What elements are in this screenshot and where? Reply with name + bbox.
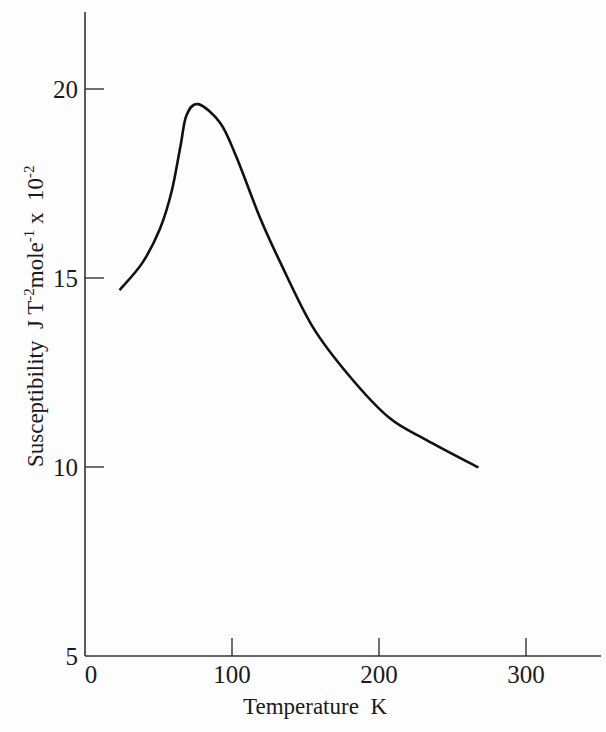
x-tick-label: 100 [213,661,251,688]
susceptibility-curve [120,104,477,467]
x-tick-label: 300 [507,661,545,688]
x-tick-label: 200 [360,661,398,688]
ticks: 51015200100200300 [53,76,545,688]
chart: 51015200100200300 Temperature K Suscepti… [0,0,606,732]
y-tick-label: 15 [53,265,78,292]
y-tick-label: 20 [53,76,78,103]
y-axis-label: Susceptibility J T-2mole-1 x 10-2 [14,148,48,496]
x-axis-label: Temperature K [243,694,387,719]
axes [85,12,601,656]
x-tick-label: 0 [85,661,98,688]
y-tick-label: 10 [53,454,78,481]
y-tick-label: 5 [66,643,79,670]
